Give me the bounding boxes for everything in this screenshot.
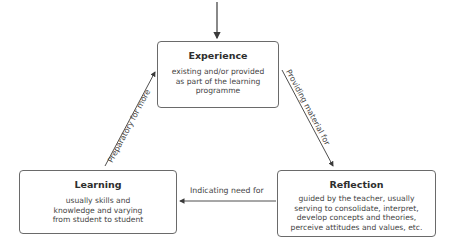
experience-node: Experience existing and/or provided as p… — [157, 41, 279, 108]
reflection-title: Reflection — [278, 179, 435, 190]
experience-description: existing and/or provided as part of the … — [158, 67, 278, 96]
reflection-node: Reflection guided by the teacher, usuall… — [277, 170, 436, 237]
experience-title: Experience — [158, 50, 278, 61]
learning-title: Learning — [20, 179, 176, 190]
learning-description: usually skills and knowledge and varying… — [20, 196, 176, 225]
edge-label-indicating-need-for: Indicating need for — [190, 186, 264, 195]
reflection-description: guided by the teacher, usually serving t… — [278, 194, 435, 232]
learning-node: Learning usually skills and knowledge an… — [19, 170, 177, 234]
